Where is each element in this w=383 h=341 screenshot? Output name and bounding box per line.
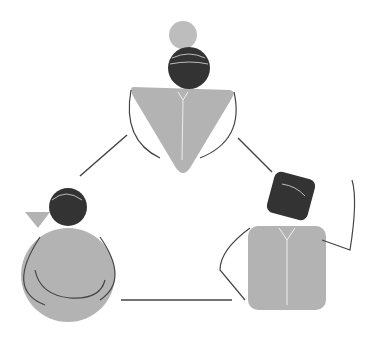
figure-left	[21, 188, 115, 322]
hair-bun-icon	[169, 21, 197, 49]
figure-right	[220, 170, 355, 310]
team-triangle-illustration	[0, 0, 383, 341]
head-icon	[168, 47, 210, 89]
head-icon	[265, 170, 316, 221]
figure-top	[129, 21, 236, 173]
